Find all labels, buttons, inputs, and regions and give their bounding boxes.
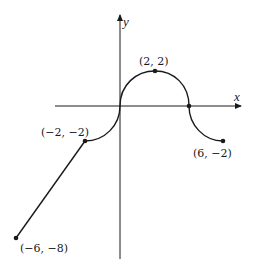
segment-left-arc bbox=[85, 106, 120, 141]
y-axis-label: y bbox=[121, 14, 129, 29]
label-neg2-neg2: (−2, −2) bbox=[41, 126, 89, 139]
label-2-2: (2, 2) bbox=[139, 55, 169, 68]
point-neg2-neg2 bbox=[83, 139, 88, 144]
segment-linear bbox=[16, 141, 85, 238]
point-neg6-neg8 bbox=[14, 236, 19, 241]
label-neg6-neg8: (−6, −8) bbox=[20, 242, 68, 255]
point-6-neg2 bbox=[221, 139, 226, 144]
point-4-0 bbox=[187, 104, 192, 109]
function-graph: x y (−6, −8) (−2, −2) (2, 2) (6, −2) bbox=[0, 0, 254, 273]
point-2-2 bbox=[153, 69, 158, 74]
x-axis-label: x bbox=[233, 89, 240, 104]
label-6-neg2: (6, −2) bbox=[193, 147, 232, 160]
segment-right-arc bbox=[189, 106, 223, 141]
segment-top-arc bbox=[120, 71, 189, 106]
